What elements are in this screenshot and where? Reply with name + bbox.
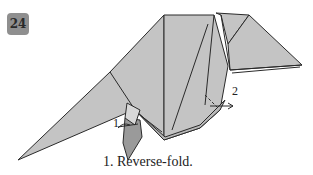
label-1: 1 — [113, 116, 119, 131]
origami-diagram — [0, 0, 313, 175]
body-center-panel — [164, 15, 228, 140]
label-2: 2 — [232, 84, 238, 99]
step-caption: 1. Reverse-fold. — [103, 154, 193, 170]
